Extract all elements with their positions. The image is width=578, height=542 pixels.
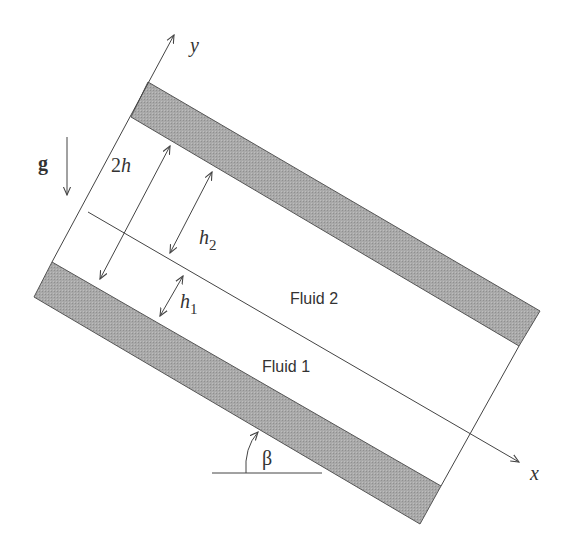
right-boundary-line <box>441 346 519 486</box>
channel-diagram: y x g 2h h2 h1 Fluid 2 Fluid 1 β <box>0 0 578 542</box>
angle-arc <box>246 432 258 473</box>
y-axis <box>52 35 174 262</box>
x-axis-label: x <box>529 462 539 484</box>
dimension-h1-label: h1 <box>180 290 198 317</box>
y-axis-label: y <box>188 34 199 57</box>
dimension-h2-label: h2 <box>199 226 217 253</box>
dimension-2h-label: 2h <box>111 154 131 176</box>
angle-label: β <box>262 447 272 470</box>
fluid-2-label: Fluid 2 <box>290 290 338 307</box>
gravity-label: g <box>38 152 48 175</box>
fluid-1-label: Fluid 1 <box>262 358 310 375</box>
lower-wall <box>34 262 441 524</box>
